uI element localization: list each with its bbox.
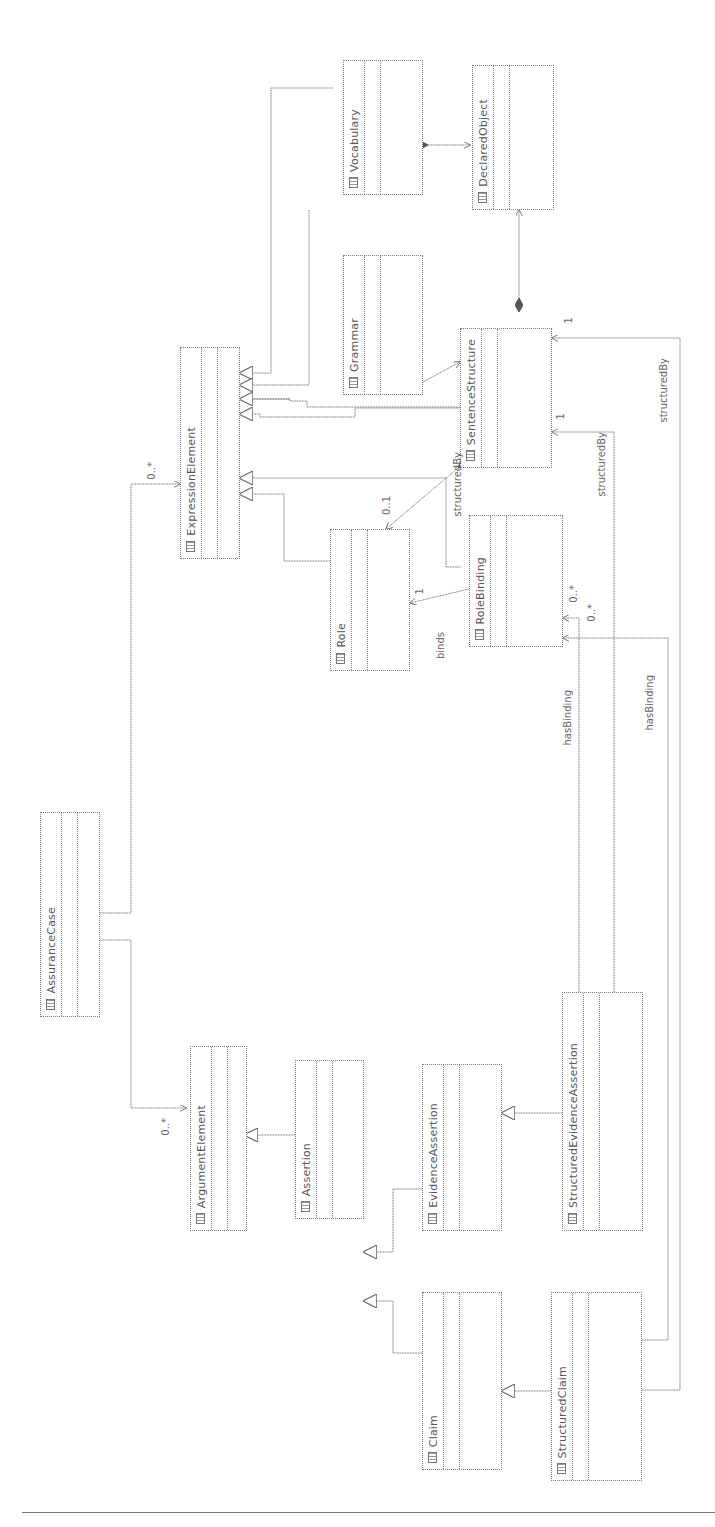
multiplicity-label: 1 [414, 588, 425, 594]
class-sentence-structure[interactable]: SentenceStructure [460, 328, 552, 468]
class-assertion[interactable]: Assertion [295, 1060, 364, 1219]
label-structured-by: structuredBy [452, 452, 463, 517]
class-role[interactable]: Role [330, 529, 410, 671]
class-expression-element[interactable]: ExpressionElement [180, 347, 240, 559]
label-structured-by: structuredBy [658, 358, 669, 423]
class-vocabulary[interactable]: Vocabulary [343, 60, 423, 195]
class-name: DeclaredObject [473, 99, 493, 187]
class-name: SentenceStructure [461, 339, 481, 445]
class-icon [475, 629, 484, 640]
class-name: Assertion [296, 1143, 316, 1196]
class-name: ArgumentElement [191, 1105, 211, 1208]
class-icon [466, 450, 475, 461]
multiplicity-label: 0..* [146, 462, 157, 480]
class-name: Vocabulary [344, 109, 364, 172]
class-name: StructuredEvidenceAssertion [563, 1043, 583, 1208]
class-icon [428, 1213, 437, 1224]
class-icon [301, 1201, 310, 1212]
label-binds: binds [435, 632, 446, 659]
class-name: EvidenceAssertion [423, 1103, 443, 1208]
class-name: StructuredClaim [552, 1366, 572, 1458]
class-role-binding[interactable]: RoleBinding [469, 515, 563, 647]
class-icon [478, 192, 487, 203]
label-has-binding: hasBinding [644, 675, 655, 730]
class-icon [428, 1452, 437, 1463]
class-icon [557, 1463, 566, 1474]
label-has-binding: hasBinding [562, 690, 573, 745]
class-assurance-case[interactable]: AssuranceCase [40, 812, 100, 1017]
class-structured-claim[interactable]: StructuredClaim [551, 1292, 642, 1481]
uml-class-diagram: ' [0, 0, 715, 1527]
class-icon [349, 177, 358, 188]
class-name: RoleBinding [470, 557, 490, 624]
multiplicity-label: 0..* [568, 585, 579, 603]
class-name: AssuranceCase [41, 907, 61, 994]
multiplicity-label: 0..1 [381, 496, 392, 515]
class-claim[interactable]: Claim [422, 1292, 502, 1470]
page-rule [22, 1512, 715, 1513]
class-evidence-assertion[interactable]: EvidenceAssertion [422, 1064, 502, 1231]
class-name: Claim [423, 1415, 443, 1447]
class-argument-element[interactable]: ArgumentElement [190, 1046, 247, 1231]
class-name: Grammar [344, 318, 364, 372]
class-icon [186, 541, 195, 552]
class-grammar[interactable]: Grammar [343, 255, 423, 395]
multiplicity-label: 0..* [586, 604, 597, 622]
multiplicity-label: 1 [555, 413, 566, 419]
class-icon [568, 1213, 577, 1224]
multiplicity-label: 1 [563, 317, 574, 323]
class-icon [336, 653, 345, 664]
multiplicity-label: 0..* [160, 1118, 171, 1136]
class-declared-object[interactable]: DeclaredObject [472, 65, 554, 210]
class-structured-evidence-assertion[interactable]: StructuredEvidenceAssertion [562, 992, 643, 1231]
class-icon [196, 1213, 205, 1224]
class-icon [46, 999, 55, 1010]
class-icon [349, 377, 358, 388]
label-structured-by: structuredBy [596, 432, 607, 497]
class-name: ExpressionElement [181, 427, 201, 536]
class-name: Role [331, 623, 351, 648]
